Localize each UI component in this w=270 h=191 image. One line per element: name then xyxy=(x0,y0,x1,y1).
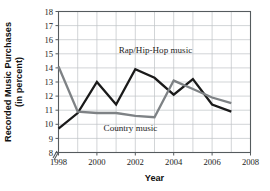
x-axis-title: Year xyxy=(145,173,165,183)
data-series-layer xyxy=(59,66,232,128)
x-tick-label: 2004 xyxy=(165,157,183,167)
y-tick-label: 9 xyxy=(49,134,53,144)
series-line-rap-hip-hop xyxy=(59,69,232,128)
x-tick-label: 1998 xyxy=(50,157,67,167)
axis-frame xyxy=(53,12,251,161)
y-tick-label: 18 xyxy=(44,7,53,17)
x-tick-label: 2008 xyxy=(242,157,259,167)
line-chart: 89101112131415161718 1998200020022004200… xyxy=(0,0,270,191)
chart-container: 89101112131415161718 1998200020022004200… xyxy=(0,0,270,191)
y-axis-tick-labels: 89101112131415161718 xyxy=(44,7,53,158)
y-tick-label: 17 xyxy=(44,21,53,31)
annotation-rap-hip-hop: Rap/Hip-Hop music xyxy=(119,45,193,55)
x-axis-tick-labels: 199820002002200420062008 xyxy=(50,157,259,167)
y-axis-title-line1: Recorded Music Purchases xyxy=(3,22,13,142)
y-tick-label: 13 xyxy=(44,77,53,87)
y-tick-label: 12 xyxy=(44,91,53,101)
tick-marks xyxy=(56,12,251,156)
annotation-country: Country music xyxy=(104,123,158,133)
x-tick-label: 2000 xyxy=(88,157,105,167)
x-tick-label: 2006 xyxy=(204,157,222,167)
y-tick-label: 16 xyxy=(44,35,53,45)
y-tick-label: 10 xyxy=(44,119,53,129)
y-axis-title: Recorded Music Purchases(in percent) xyxy=(3,22,24,142)
y-tick-label: 15 xyxy=(44,49,53,59)
y-axis-title-line2: (in percent) xyxy=(14,57,24,107)
y-tick-label: 14 xyxy=(44,63,53,73)
series-annotations: Rap/Hip-Hop musicCountry music xyxy=(104,45,193,133)
y-tick-label: 11 xyxy=(45,105,53,115)
x-tick-label: 2002 xyxy=(127,157,144,167)
